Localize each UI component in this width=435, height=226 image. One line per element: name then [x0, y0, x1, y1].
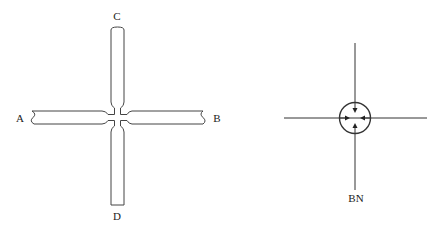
arrow-right-icon — [345, 116, 350, 121]
label-a: A — [16, 113, 24, 124]
bn-symbol — [284, 43, 427, 190]
label-c: C — [113, 11, 120, 22]
channel-arm-b — [132, 111, 205, 124]
arrow-left-icon — [360, 116, 365, 121]
channel-arm-a — [31, 111, 102, 124]
constriction-bottom-left — [102, 121, 115, 133]
constriction-top-right — [121, 102, 133, 115]
channel-arm-c — [111, 27, 124, 102]
arrow-down-icon — [353, 108, 358, 113]
constriction-top-left — [102, 102, 115, 115]
label-bn: BN — [348, 193, 363, 204]
arrow-up-icon — [353, 123, 358, 128]
label-b: B — [213, 113, 220, 124]
cross-channel-junction — [31, 27, 205, 205]
channel-arm-d — [111, 132, 124, 205]
label-d: D — [113, 211, 121, 222]
constriction-bottom-right — [121, 121, 133, 133]
